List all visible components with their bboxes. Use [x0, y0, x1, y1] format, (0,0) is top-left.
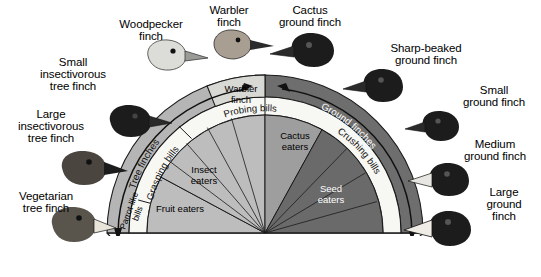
callout-woodpecker-finch: Woodpecker finch [108, 18, 194, 42]
callout-sharp-beaked-ground-finch: Sharp-beaked ground finch [378, 42, 474, 66]
bird-head-cactus-ground-finch [270, 33, 334, 67]
callout-vegetarian-tree-finch: Vegetarian tree finch [4, 190, 88, 214]
callout-warbler-finch: Warbler finch [196, 4, 262, 28]
tree-finches-arrowhead [114, 228, 122, 242]
callout-medium-ground-finch: Medium ground finch [452, 138, 538, 162]
callout-small-ground-finch: Small ground finch [452, 84, 536, 108]
bird-head-small-ground-finch [405, 111, 459, 141]
callout-large-ground-finch: Large ground finch [470, 186, 538, 223]
figure-canvas: Tree finches Ground finches Grasping bil… [0, 0, 541, 277]
bird-head-woodpecker-finch [148, 40, 208, 70]
callout-cactus-ground-finch: Cactus ground finch [268, 4, 352, 28]
callout-small-insectivorous-tree-finch: Small insectivorous tree finch [24, 56, 122, 93]
bird-head-warbler-finch [214, 30, 274, 59]
bird-head-sharp-beaked-ground-finch [343, 69, 403, 102]
callout-large-insectivorous-tree-finch: Large insectivorous tree finch [2, 108, 100, 145]
